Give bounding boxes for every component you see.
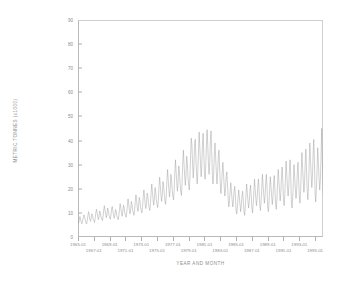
x-axis-tick-mark: [315, 237, 316, 241]
x-axis-tick-label: 1969.01: [102, 242, 118, 247]
y-axis-tick-label: 80: [68, 42, 78, 47]
x-axis-tick-label: 1987.01: [244, 248, 260, 253]
x-axis-tick-mark: [110, 237, 111, 241]
y-axis-tick-label: 40: [68, 138, 78, 143]
y-axis-tick-label: 70: [68, 66, 78, 71]
plot-area: 01020304050607080901965.011967.011969.01…: [78, 20, 323, 237]
y-axis-tick-label: 30: [68, 162, 78, 167]
x-axis-tick-mark: [220, 237, 221, 241]
x-axis-tick-mark: [204, 237, 205, 241]
x-axis-tick-mark: [283, 237, 284, 241]
x-axis-tick-mark: [236, 237, 237, 241]
x-axis-tick-label: 1983.01: [212, 248, 228, 253]
y-axis-tick-mark: [78, 92, 82, 93]
y-axis-tick-label: 0: [70, 235, 78, 240]
y-axis-tick-mark: [78, 68, 82, 69]
y-axis-title-text: METRIC TONNES (x1000): [13, 98, 18, 162]
x-axis-tick-label: 1975.01: [149, 248, 165, 253]
x-axis-title: YEAR AND MONTH: [78, 261, 323, 266]
x-axis-tick-mark: [78, 237, 79, 241]
y-axis-tick-label: 20: [68, 186, 78, 191]
y-axis-title: METRIC TONNES (x1000): [8, 70, 22, 190]
y-axis-tick-mark: [78, 188, 82, 189]
x-axis-tick-mark: [252, 237, 253, 241]
x-axis-tick-mark: [125, 237, 126, 241]
x-axis-tick-label: 1981.01: [197, 242, 213, 247]
y-axis-tick-mark: [78, 164, 82, 165]
y-axis-tick-label: 90: [68, 18, 78, 23]
x-axis-tick-mark: [94, 237, 95, 241]
chart-root: METRIC TONNES (x1000) 010203040506070809…: [0, 0, 343, 287]
y-axis-tick-mark: [78, 140, 82, 141]
x-axis-tick-label: 1973.01: [133, 242, 149, 247]
x-axis-tick-label: 1965.01: [70, 242, 86, 247]
x-axis-tick-label: 1985.01: [228, 242, 244, 247]
y-axis-tick-label: 60: [68, 90, 78, 95]
x-axis-tick-label: 1971.01: [117, 248, 133, 253]
x-axis-tick-mark: [189, 237, 190, 241]
x-axis-tick-label: 1977.01: [165, 242, 181, 247]
x-axis-tick-mark: [173, 237, 174, 241]
y-axis-tick-mark: [78, 116, 82, 117]
y-axis-tick-mark: [78, 212, 82, 213]
x-axis-tick-mark: [141, 237, 142, 241]
x-axis-tick-label: 1979.01: [181, 248, 197, 253]
x-axis-tick-mark: [268, 237, 269, 241]
y-axis-tick-label: 10: [68, 210, 78, 215]
y-axis-tick-label: 50: [68, 114, 78, 119]
x-axis-tick-label: 1967.01: [86, 248, 102, 253]
series-line-monthly-landings: [78, 20, 323, 237]
y-axis-tick-mark: [78, 44, 82, 45]
x-axis-tick-mark: [157, 237, 158, 241]
x-axis-tick-label: 1989.01: [260, 242, 276, 247]
x-axis-tick-label: 1993.01: [291, 242, 307, 247]
x-axis-tick-label: 1995.01: [307, 248, 323, 253]
x-axis-tick-mark: [299, 237, 300, 241]
x-axis-tick-label: 1991.01: [276, 248, 292, 253]
